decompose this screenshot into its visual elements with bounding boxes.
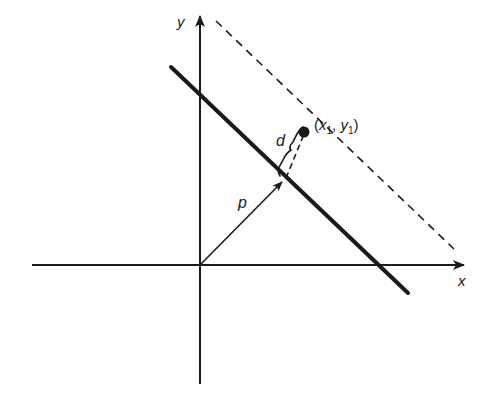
parallel-dashed-line [216,21,454,249]
line-distance-diagram: x y p d (x1, y1) [0,0,492,403]
point-marker [299,127,310,138]
point-label: (x1, y1) [314,116,358,136]
distance-segment [286,134,304,178]
x-axis-label: x [457,272,466,289]
distance-label: d [276,132,286,149]
y-axis-label: y [176,13,186,30]
normal-vector-label: p [237,194,247,211]
